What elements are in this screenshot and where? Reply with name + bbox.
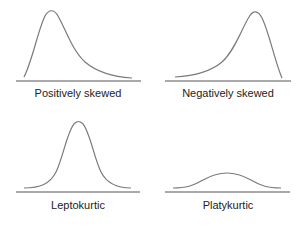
panel-negatively-skewed: [165, 12, 291, 81]
label-leptokurtic: Leptokurtic: [51, 199, 105, 211]
curves-canvas: [0, 0, 301, 228]
label-platykurtic: Platykurtic: [203, 199, 254, 211]
panel-positively-skewed: [16, 11, 141, 81]
negatively-skewed-curve: [175, 12, 282, 78]
platykurtic-curve: [173, 173, 281, 188]
positively-skewed-curve: [24, 11, 132, 78]
label-positively-skewed: Positively skewed: [35, 87, 122, 99]
panel-platykurtic: [165, 173, 290, 192]
distribution-shapes-diagram: Positively skewed Negatively skewed Lept…: [0, 0, 301, 228]
panel-leptokurtic: [16, 122, 140, 193]
label-negatively-skewed: Negatively skewed: [182, 87, 274, 99]
leptokurtic-curve: [24, 122, 131, 189]
